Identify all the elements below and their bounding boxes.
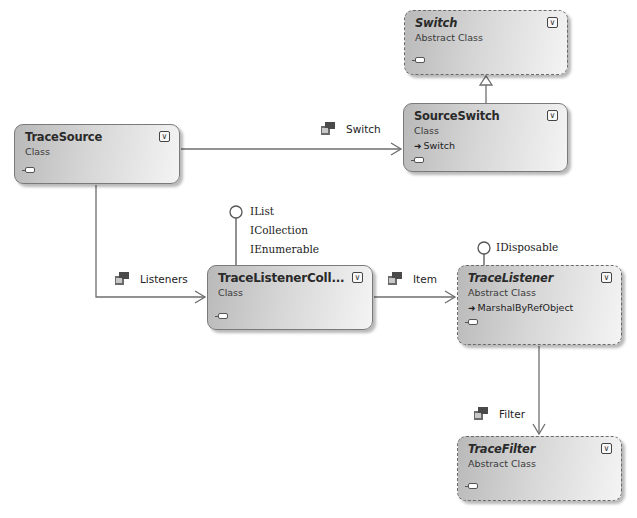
class-kind: Class (218, 287, 243, 298)
class-name: TraceListener (468, 271, 553, 285)
property-icon (321, 122, 335, 135)
interface-label: IDisposable (496, 241, 558, 253)
association-item-connector[interactable] (374, 291, 455, 303)
inherits-arrow-icon: ➜ (414, 141, 422, 151)
class-kind: Abstract Class (468, 287, 536, 298)
expand-toggle-icon[interactable]: ∨ (601, 443, 612, 454)
class-name: TraceSource (25, 130, 102, 144)
base-class: ➜MarshalByRefObject (468, 302, 573, 313)
class-shape-tracesource[interactable]: TraceSource Class ∨ (14, 124, 180, 184)
association-label-filter[interactable]: Filter (499, 408, 525, 420)
class-shape-switch[interactable]: Switch Abstract Class ∨ (404, 10, 568, 75)
member-compartment-icon (25, 167, 35, 173)
inherits-arrow-icon: ➜ (468, 303, 476, 313)
association-label-listeners[interactable]: Listeners (140, 273, 188, 285)
class-name: TraceFilter (468, 442, 535, 456)
interface-label: ICollection (250, 224, 308, 236)
class-kind: Class (414, 125, 439, 136)
class-name: Switch (415, 16, 457, 30)
expand-toggle-icon[interactable]: ∨ (352, 272, 363, 283)
class-shape-tracelistener[interactable]: TraceListener Abstract Class ➜MarshalByR… (457, 265, 622, 345)
class-shape-tracelistenercollection[interactable]: TraceListenerColl... Class ∨ (207, 265, 373, 330)
property-icon (388, 272, 402, 285)
interface-label: IList (250, 205, 274, 217)
association-label-switch[interactable]: Switch (346, 123, 381, 135)
member-compartment-icon (218, 313, 228, 319)
property-icon (474, 407, 488, 420)
property-icon (115, 272, 129, 285)
class-shape-tracefilter[interactable]: TraceFilter Abstract Class ∨ (457, 436, 622, 501)
expand-toggle-icon[interactable]: ∨ (159, 131, 170, 142)
expand-toggle-icon[interactable]: ∨ (547, 110, 558, 121)
member-compartment-icon (415, 57, 425, 63)
class-kind: Abstract Class (468, 458, 536, 469)
association-label-item[interactable]: Item (413, 273, 437, 285)
base-class-name: MarshalByRefObject (478, 302, 574, 313)
class-name: SourceSwitch (414, 109, 500, 123)
association-switch-connector[interactable] (181, 143, 401, 155)
class-diagram-canvas: Switch Abstract Class ∨ SourceSwitch Cla… (0, 0, 637, 518)
interface-lollipop-tracelistener (478, 242, 490, 265)
expand-toggle-icon[interactable]: ∨ (601, 272, 612, 283)
class-kind: Abstract Class (415, 32, 483, 43)
class-name: TraceListenerColl... (218, 271, 344, 285)
member-compartment-icon (468, 319, 478, 325)
class-shape-sourceswitch[interactable]: SourceSwitch Class ➜Switch ∨ (403, 103, 568, 172)
association-listeners-connector[interactable] (96, 185, 205, 303)
base-class-name: Switch (424, 140, 455, 151)
inheritance-connector[interactable] (480, 76, 492, 103)
base-class: ➜Switch (414, 140, 455, 151)
expand-toggle-icon[interactable]: ∨ (547, 17, 558, 28)
class-kind: Class (25, 146, 50, 157)
association-filter-connector[interactable] (533, 346, 545, 434)
member-compartment-icon (414, 157, 424, 163)
member-compartment-icon (468, 483, 478, 489)
interface-label: IEnumerable (250, 243, 319, 255)
interface-lollipop-tracelistenercollection (230, 206, 242, 265)
